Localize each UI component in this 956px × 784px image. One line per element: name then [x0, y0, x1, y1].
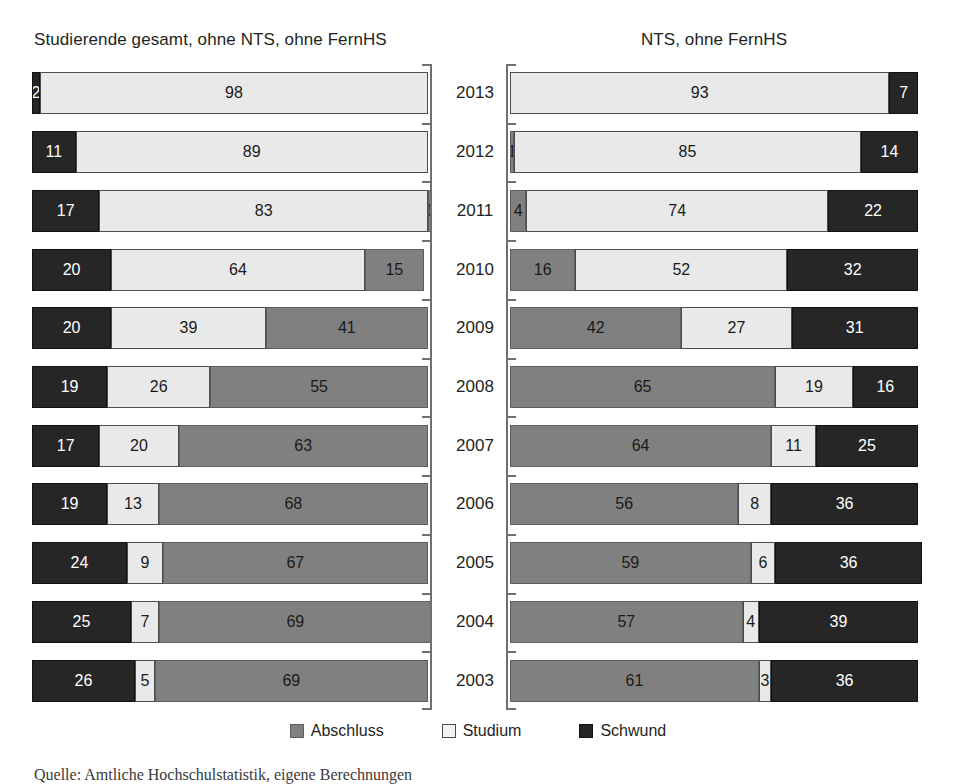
bar-segment-value: 32 [844, 262, 862, 278]
axis-tick [422, 299, 430, 301]
bar-segment-value: 41 [338, 320, 356, 336]
bar-segment-value: 36 [836, 673, 854, 689]
bar-row: 24967 [32, 542, 428, 584]
axis-tick [422, 123, 430, 125]
bar-segment-value: 85 [679, 144, 697, 160]
bar-segment-studium: 7 [131, 601, 159, 643]
bar-segment-studium: 19 [775, 366, 853, 408]
bar-segment-value: 63 [294, 438, 312, 454]
year-label: 2009 [444, 307, 506, 349]
bar-row: 25769 [32, 601, 428, 643]
axis-tick [508, 708, 516, 710]
bar-segment-abschluss: 69 [155, 660, 428, 702]
bar-segment-value: 11 [785, 438, 802, 454]
bar-segment-abschluss: 42 [510, 307, 681, 349]
legend-label-abschluss: Abschluss [311, 722, 384, 740]
bar-segment-value: 52 [672, 262, 690, 278]
bar-row: 206415 [32, 249, 428, 291]
chart-legend: Abschluss Studium Schwund [0, 722, 956, 740]
axis-tick [508, 475, 516, 477]
bar-segment-value: 64 [229, 262, 247, 278]
bar-segment-value: 3 [761, 673, 770, 689]
bar-row: 165232 [510, 249, 918, 291]
bar-segment-schwund: 36 [775, 542, 922, 584]
bar-segment-studium: 5 [135, 660, 155, 702]
bar-segment-abschluss: 57 [510, 601, 743, 643]
bar-segment-studium: 26 [107, 366, 210, 408]
bar-row: 937 [510, 72, 918, 114]
legend-swatch-schwund-icon [579, 724, 593, 738]
bar-segment-value: 17 [57, 203, 75, 219]
bar-segment-value: 67 [286, 555, 304, 571]
bar-row: 298 [32, 72, 428, 114]
bar-row: 26569 [32, 660, 428, 702]
year-label: 2006 [444, 483, 506, 525]
bar-segment-value: 26 [75, 673, 93, 689]
axis-tick [508, 416, 516, 418]
bar-row: 651916 [510, 366, 918, 408]
bar-segment-value: 20 [63, 320, 81, 336]
axis-tick [508, 593, 516, 595]
bar-segment-value: 27 [728, 320, 746, 336]
bar-segment-value: 16 [534, 262, 552, 278]
bar-segment-studium: 89 [76, 131, 428, 173]
bar-segment-schwund: 24 [32, 542, 127, 584]
bar-segment-value: 39 [180, 320, 198, 336]
bar-segment-value: 14 [881, 144, 899, 160]
bar-row: 56836 [510, 483, 918, 525]
bar-segment-schwund: 31 [792, 307, 918, 349]
bar-segment-schwund: 17 [32, 190, 99, 232]
bar-segment-value: 26 [150, 379, 168, 395]
axis-tick [508, 358, 516, 360]
bar-segment-value: 16 [876, 379, 894, 395]
bar-segment-abschluss: 55 [210, 366, 428, 408]
bar-segment-schwund: 19 [32, 483, 107, 525]
bar-segment-schwund: 36 [771, 660, 918, 702]
bar-segment-value: 7 [899, 85, 908, 101]
bar-segment-schwund: 22 [828, 190, 918, 232]
bar-segment-value: 64 [632, 438, 650, 454]
bar-segment-value: 19 [61, 379, 79, 395]
legend-item-schwund: Schwund [579, 722, 666, 740]
bar-segment-value: 7 [140, 614, 149, 630]
bar-row: 172063 [32, 425, 428, 467]
bar-segment-schwund: 16 [853, 366, 918, 408]
year-label: 2012 [444, 131, 506, 173]
right-axis-spine [506, 64, 508, 710]
axis-tick [508, 123, 516, 125]
bar-segment-value: 93 [691, 85, 709, 101]
bar-segment-studium: 11 [771, 425, 816, 467]
bar-segment-studium: 74 [526, 190, 828, 232]
axis-tick [422, 708, 430, 710]
bar-segment-value: 25 [73, 614, 91, 630]
bar-segment-abschluss: 63 [179, 425, 428, 467]
bar-segment-value: 17 [57, 438, 75, 454]
bar-segment-studium: 64 [111, 249, 364, 291]
bar-segment-studium: 9 [127, 542, 163, 584]
source-note: Quelle: Amtliche Hochschulstatistik, eig… [34, 766, 412, 784]
bar-segment-value: 13 [124, 496, 142, 512]
bar-segment-value: 56 [615, 496, 633, 512]
bar-segment-value: 69 [286, 614, 304, 630]
bar-segment-schwund: 20 [32, 249, 111, 291]
bar-segment-studium: 83 [99, 190, 428, 232]
bar-segment-abschluss: 15 [365, 249, 424, 291]
bar-segment-value: 22 [864, 203, 882, 219]
bar-segment-value: 5 [140, 673, 149, 689]
legend-label-schwund: Schwund [600, 722, 666, 740]
bar-segment-schwund: 32 [787, 249, 918, 291]
bar-segment-schwund: 26 [32, 660, 135, 702]
bar-segment-value: 39 [830, 614, 848, 630]
bar-segment-value: 59 [621, 555, 639, 571]
year-label: 2004 [444, 601, 506, 643]
bar-row: 192655 [32, 366, 428, 408]
bar-segment-abschluss: 41 [266, 307, 428, 349]
bar-segment-abschluss: 67 [163, 542, 428, 584]
year-label: 2005 [444, 542, 506, 584]
bar-row: 57439 [510, 601, 918, 643]
bar-segment-studium: 39 [111, 307, 265, 349]
bar-segment-studium: 93 [510, 72, 889, 114]
bar-segment-value: 20 [130, 438, 148, 454]
axis-tick [508, 299, 516, 301]
